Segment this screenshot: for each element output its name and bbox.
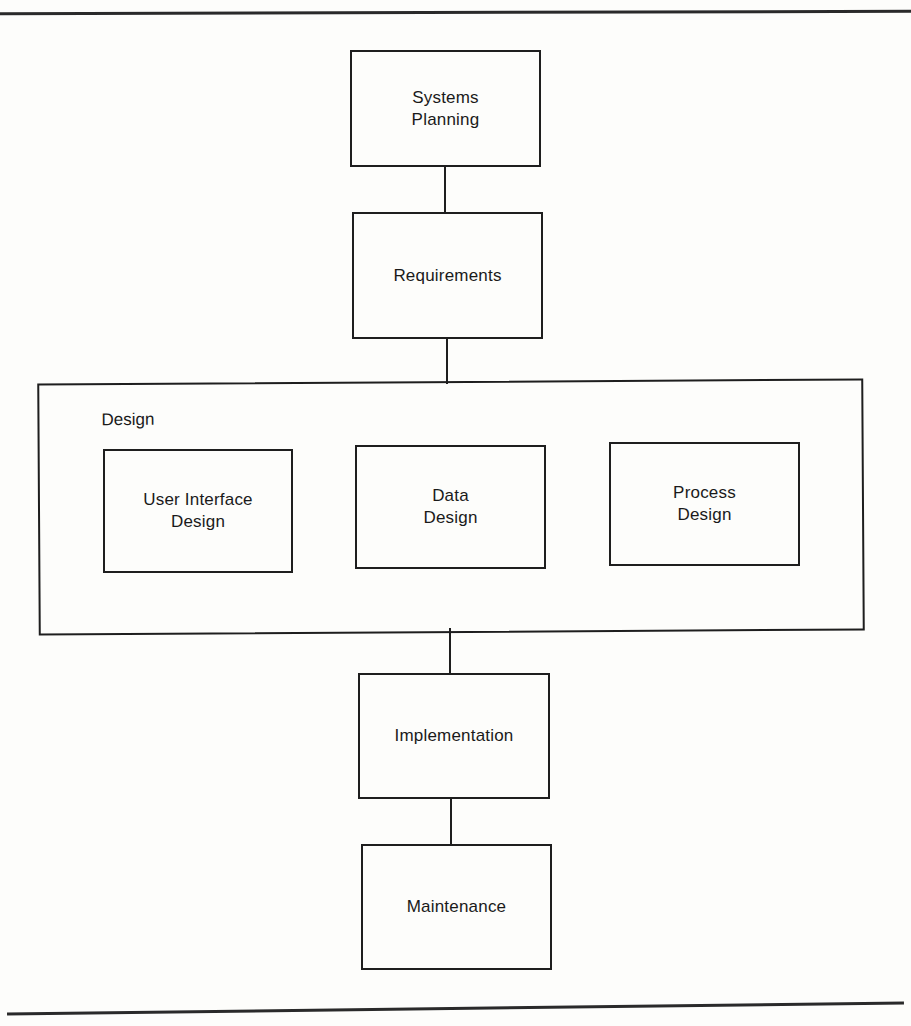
systems-planning-box: Systems Planning [350,50,541,167]
maintenance-box: Maintenance [361,844,552,970]
implementation-box: Implementation [358,673,550,799]
systems-planning-label: Systems Planning [412,87,480,131]
requirements-box: Requirements [352,212,543,339]
implementation-label: Implementation [394,725,513,747]
user-interface-design-box: User Interface Design [103,449,293,573]
process-design-box: Process Design [609,442,800,566]
design-group-label: Design [101,410,154,430]
data-design-label: Data Design [423,485,477,529]
user-interface-design-label: User Interface Design [143,489,253,533]
maintenance-label: Maintenance [407,896,507,918]
process-design-label: Process Design [673,482,736,526]
data-design-box: Data Design [355,445,546,569]
requirements-label: Requirements [393,265,501,287]
